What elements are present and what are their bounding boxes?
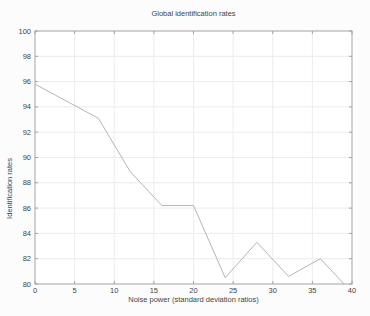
y-tick-label: 84 — [23, 229, 31, 238]
y-tick-label: 92 — [23, 128, 31, 137]
y-tick-label: 94 — [23, 102, 31, 111]
x-tick-label: 10 — [110, 286, 118, 295]
y-tick-label: 100 — [18, 27, 31, 36]
y-tick-label: 80 — [23, 280, 31, 289]
x-tick-label: 35 — [308, 286, 316, 295]
figure-window: Global identification rates Identificati… — [0, 0, 370, 316]
y-tick-label: 82 — [23, 254, 31, 263]
x-tick-label: 25 — [229, 286, 237, 295]
y-tick-label: 98 — [23, 52, 31, 61]
y-tick-label: 86 — [23, 204, 31, 213]
x-tick-label: 15 — [150, 286, 158, 295]
x-tick-label: 40 — [348, 286, 356, 295]
x-tick-label: 5 — [73, 286, 77, 295]
x-tick-label: 0 — [33, 286, 37, 295]
x-axis-label: Noise power (standard deviation ratios) — [35, 295, 352, 304]
y-tick-label: 96 — [23, 77, 31, 86]
x-tick-label: 30 — [269, 286, 277, 295]
x-tick-label: 20 — [189, 286, 197, 295]
y-tick-label: 88 — [23, 178, 31, 187]
plot-area: 051015202530354080828486889092949698100 — [0, 0, 370, 316]
y-tick-label: 90 — [23, 153, 31, 162]
